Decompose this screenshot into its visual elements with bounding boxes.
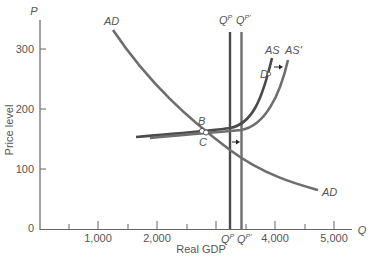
qp-label-top: QP bbox=[219, 14, 233, 26]
axes bbox=[40, 20, 352, 230]
point-b-label: B bbox=[198, 115, 205, 127]
qp-prime-label-bottom: QP' bbox=[237, 233, 252, 245]
x-axis-title: Real GDP bbox=[176, 243, 226, 255]
as-label: AS bbox=[264, 44, 280, 56]
y-tick-label: 300 bbox=[16, 43, 34, 55]
point-d-label: D bbox=[260, 68, 268, 80]
y-tick-label: 200 bbox=[16, 103, 34, 115]
y-tick-label: 100 bbox=[16, 163, 34, 175]
as-shift-arrow-icon bbox=[274, 65, 283, 70]
y-axis-symbol: P bbox=[30, 5, 38, 17]
qp-label-bottom: QP bbox=[221, 233, 235, 245]
x-tick-label: 2,000 bbox=[143, 232, 171, 244]
point-c-marker bbox=[203, 130, 208, 135]
ad-label-top: AD bbox=[103, 15, 119, 27]
y-tick-label: 0 bbox=[28, 222, 34, 234]
x-tick-label: 1,000 bbox=[84, 232, 112, 244]
x-axis-symbol: Q bbox=[358, 224, 367, 236]
ad-label-bottom: AD bbox=[321, 186, 337, 198]
point-c-label: C bbox=[199, 136, 207, 148]
as-prime-label: AS' bbox=[284, 44, 303, 56]
x-tick-label: 5,000 bbox=[320, 232, 348, 244]
y-axis-title: Price level bbox=[3, 105, 15, 156]
qp-shift-arrow-icon bbox=[232, 140, 240, 145]
ad-as-chart: P Q Price level Real GDP 300 200 100 0 1… bbox=[0, 0, 375, 261]
qp-prime-label-top: QP' bbox=[236, 14, 251, 26]
x-tick-label: 4,000 bbox=[261, 232, 289, 244]
